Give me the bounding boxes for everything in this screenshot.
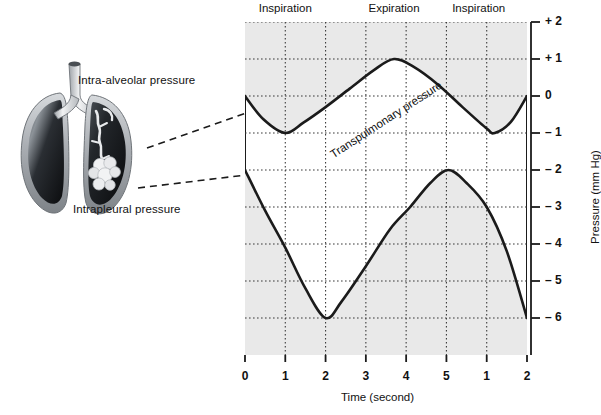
y-tick-label-7: – 5: [545, 273, 562, 287]
x-tick-label-5: 5: [434, 369, 458, 383]
y-tick-label-1: + 1: [545, 51, 562, 65]
x-tick-label-2: 2: [314, 369, 338, 383]
y-tick-label-6: – 4: [545, 236, 562, 250]
y-tick-label-8: – 6: [545, 310, 562, 324]
x-tick-label-4: 4: [394, 369, 418, 383]
y-axis-title: Pressure (mm Hg): [589, 150, 601, 244]
x-tick-label-6: 1: [475, 369, 499, 383]
label-intra-alveolar-pressure: Intra-alveolar pressure: [78, 74, 195, 86]
x-axis-title: Time (second): [341, 391, 414, 403]
chart-svg: [245, 22, 527, 355]
y-tick-label-2: 0: [545, 88, 552, 102]
y-tick-label-3: – 1: [545, 125, 562, 139]
y-tick-label-0: + 2: [545, 14, 562, 28]
phase-label-3: Inspiration: [379, 2, 579, 14]
pressure-chart: [245, 22, 527, 355]
x-tick-label-1: 1: [273, 369, 297, 383]
right-lung-group: [84, 95, 132, 214]
label-intrapleural-pressure: Intrapleural pressure: [73, 203, 181, 215]
x-tick-label-3: 3: [354, 369, 378, 383]
x-tick-label-7: 2: [515, 369, 539, 383]
y-tick-label-4: – 2: [545, 162, 562, 176]
plot-area: [245, 22, 527, 355]
y-tick-label-5: – 3: [545, 199, 562, 213]
x-tick-label-0: 0: [233, 369, 257, 383]
